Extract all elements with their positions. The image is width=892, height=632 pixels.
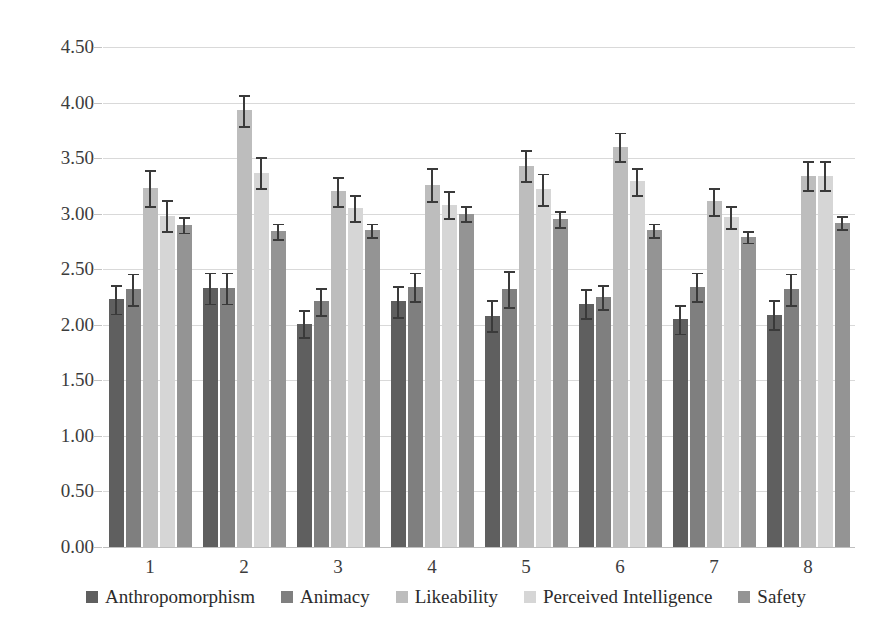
bar-group [197, 47, 291, 547]
error-bar-cap-bottom [222, 304, 233, 306]
error-bar-cap-top [521, 150, 532, 152]
y-axis-tick-label: 3.50 [34, 147, 94, 169]
bar-animacy[interactable] [502, 47, 517, 547]
error-bar-cap-top [692, 273, 703, 275]
bar-rect [690, 287, 705, 547]
bar-perceived-intelligence[interactable] [160, 47, 175, 547]
error-bar-cap-bottom [145, 206, 156, 208]
bar-safety[interactable] [647, 47, 662, 547]
bar-perceived-intelligence[interactable] [536, 47, 551, 547]
bar-anthropomorphism[interactable] [767, 47, 782, 547]
error-bar-cap-bottom [581, 318, 592, 320]
legend-swatch-icon [738, 591, 750, 603]
legend-item-animacy[interactable]: Animacy [281, 586, 370, 608]
error-bar-line [653, 224, 655, 237]
x-axis-tick-label: 4 [402, 556, 462, 578]
bar-safety[interactable] [835, 47, 850, 547]
error-bar-cap-top [367, 224, 378, 226]
bar-perceived-intelligence[interactable] [818, 47, 833, 547]
error-bar-line [525, 150, 527, 181]
error-bar-cap-top [393, 286, 404, 288]
bar-anthropomorphism[interactable] [109, 47, 124, 547]
bar-rect [459, 214, 474, 547]
bar-rect [630, 181, 645, 547]
error-bar-cap-bottom [504, 307, 515, 309]
bar-animacy[interactable] [596, 47, 611, 547]
y-axis-tick-label: 2.00 [34, 314, 94, 336]
error-bar-cap-top [581, 289, 592, 291]
legend-item-safety[interactable]: Safety [738, 586, 806, 608]
bar-perceived-intelligence[interactable] [724, 47, 739, 547]
error-bar-cap-bottom [333, 206, 344, 208]
bar-anthropomorphism[interactable] [579, 47, 594, 547]
error-bar-cap-bottom [837, 229, 848, 231]
error-bar-cap-bottom [786, 305, 797, 307]
bar-animacy[interactable] [314, 47, 329, 547]
error-bar-cap-top [837, 216, 848, 218]
bar-rect [203, 288, 218, 547]
bar-safety[interactable] [365, 47, 380, 547]
y-axis-tick-mark [93, 103, 102, 104]
error-bar-cap-top [504, 271, 515, 273]
x-axis-tick-label: 5 [496, 556, 556, 578]
y-axis-tick-label: 0.00 [34, 536, 94, 558]
bar-animacy[interactable] [220, 47, 235, 547]
bar-likeability[interactable] [425, 47, 440, 547]
legend-swatch-icon [281, 591, 293, 603]
error-bar-line [354, 195, 356, 222]
bar-animacy[interactable] [126, 47, 141, 547]
bar-likeability[interactable] [143, 47, 158, 547]
error-bar-cap-top [179, 217, 190, 219]
bar-likeability[interactable] [707, 47, 722, 547]
error-bar-cap-bottom [675, 334, 686, 336]
bar-anthropomorphism[interactable] [297, 47, 312, 547]
bar-rect [271, 231, 286, 547]
bar-rect [784, 289, 799, 547]
bar-rect [254, 173, 269, 547]
error-bar-cap-top [111, 285, 122, 287]
bar-rect [297, 324, 312, 547]
bar-anthropomorphism[interactable] [485, 47, 500, 547]
error-bar-line [491, 300, 493, 331]
error-bar-cap-top [786, 274, 797, 276]
bar-likeability[interactable] [613, 47, 628, 547]
bar-animacy[interactable] [784, 47, 799, 547]
error-bar-cap-top [299, 310, 310, 312]
bar-safety[interactable] [553, 47, 568, 547]
error-bar-line [115, 285, 117, 314]
bar-rect [519, 166, 534, 547]
bar-likeability[interactable] [331, 47, 346, 547]
bar-animacy[interactable] [408, 47, 423, 547]
bar-perceived-intelligence[interactable] [348, 47, 363, 547]
bar-likeability[interactable] [801, 47, 816, 547]
bar-rect [177, 225, 192, 547]
bar-perceived-intelligence[interactable] [254, 47, 269, 547]
legend-item-perceived-intelligence[interactable]: Perceived Intelligence [524, 586, 712, 608]
bar-animacy[interactable] [690, 47, 705, 547]
bar-rect [109, 299, 124, 547]
bar-anthropomorphism[interactable] [673, 47, 688, 547]
bar-safety[interactable] [271, 47, 286, 547]
legend-label: Animacy [300, 586, 370, 608]
bar-likeability[interactable] [237, 47, 252, 547]
error-bar-line [303, 310, 305, 337]
bar-anthropomorphism[interactable] [391, 47, 406, 547]
legend-item-likeability[interactable]: Likeability [396, 586, 498, 608]
bar-rect [613, 147, 628, 547]
bar-likeability[interactable] [519, 47, 534, 547]
error-bar-cap-bottom [803, 190, 814, 192]
error-bar-line [465, 206, 467, 222]
bar-safety[interactable] [177, 47, 192, 547]
bar-perceived-intelligence[interactable] [442, 47, 457, 547]
bar-safety[interactable] [741, 47, 756, 547]
error-bar-cap-top [444, 191, 455, 193]
bar-safety[interactable] [459, 47, 474, 547]
legend-label: Likeability [415, 586, 498, 608]
bar-rect [579, 304, 594, 547]
y-axis-tick-mark [93, 547, 102, 548]
legend-item-anthropomorphism[interactable]: Anthropomorphism [86, 586, 255, 608]
y-axis-tick-mark [93, 380, 102, 381]
bar-perceived-intelligence[interactable] [630, 47, 645, 547]
error-bar-cap-top [487, 300, 498, 302]
bar-anthropomorphism[interactable] [203, 47, 218, 547]
